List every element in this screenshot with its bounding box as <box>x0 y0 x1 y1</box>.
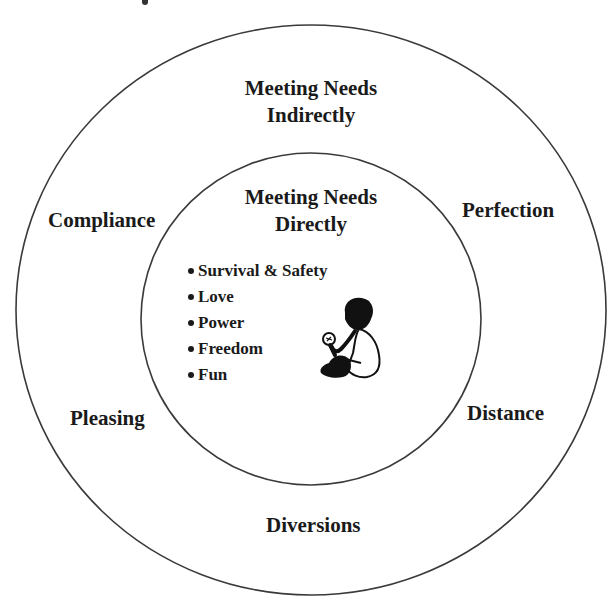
bullet-icon <box>188 294 194 300</box>
need-item: Freedom <box>188 336 327 362</box>
bullet-icon <box>188 372 194 378</box>
strategy-perfection: Perfection <box>462 197 554 223</box>
needs-diagram: Meeting Needs Indirectly Compliance Perf… <box>0 0 616 616</box>
outer-title-line2: Indirectly <box>211 102 411 129</box>
outer-title-line1: Meeting Needs <box>211 75 411 102</box>
bullet-icon <box>188 346 194 352</box>
strategy-distance: Distance <box>467 400 544 426</box>
need-item: Fun <box>188 362 327 388</box>
needs-list: Survival & Safety Love Power Freedom Fun <box>188 258 327 388</box>
outer-title: Meeting Needs Indirectly <box>211 75 411 129</box>
inner-title-line1: Meeting Needs <box>211 184 411 211</box>
bullet-icon <box>188 268 194 274</box>
need-item: Power <box>188 310 327 336</box>
need-item: Survival & Safety <box>188 258 327 284</box>
bullet-icon <box>188 320 194 326</box>
need-item: Love <box>188 284 327 310</box>
inner-title-line2: Directly <box>211 211 411 238</box>
strategy-pleasing: Pleasing <box>70 405 145 431</box>
child-sitting-icon <box>315 293 387 383</box>
strategy-compliance: Compliance <box>48 207 155 233</box>
inner-title: Meeting Needs Directly <box>211 184 411 238</box>
strategy-diversions: Diversions <box>266 512 361 538</box>
